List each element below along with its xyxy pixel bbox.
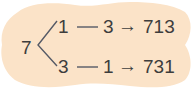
branch-1-result: 713 <box>143 17 175 36</box>
branch-1-first-digit: 1 <box>58 17 69 36</box>
branch-2-first-digit: 3 <box>58 57 69 76</box>
branch-2-second-digit: 1 <box>103 57 114 76</box>
branch-2-result: 731 <box>143 57 175 76</box>
branch-2-arrow-icon: → <box>118 56 137 75</box>
root-node: 7 <box>21 38 32 57</box>
branch-1-second-digit: 3 <box>103 17 114 36</box>
branch-1-arrow-icon: → <box>118 16 137 35</box>
